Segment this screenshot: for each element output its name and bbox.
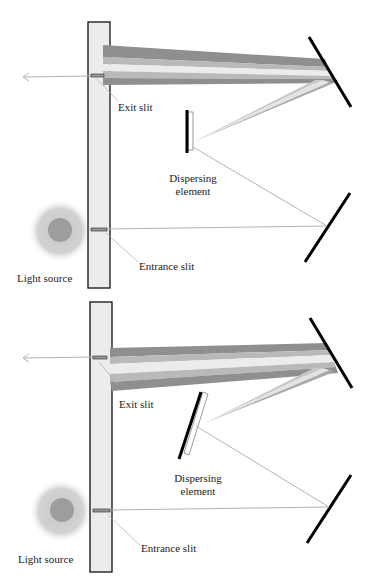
- label-line: element: [165, 485, 231, 498]
- mirror-lower: [307, 475, 351, 543]
- collimated-beam: [103, 45, 336, 85]
- dispersing-element: [187, 110, 193, 153]
- light-source-icon: [28, 199, 92, 263]
- dispersed-fan: [193, 80, 334, 142]
- label-light-source: Light source: [18, 553, 73, 566]
- label-entrance-slit: Entrance slit: [141, 542, 196, 555]
- output-arrow-icon: [23, 73, 92, 81]
- panel-top: [23, 22, 351, 288]
- entrance-slit: [91, 228, 107, 231]
- entrance-slit: [93, 509, 110, 512]
- output-arrow-icon: [23, 354, 94, 362]
- label-line: element: [160, 185, 226, 198]
- label-line: Dispersing: [165, 472, 231, 485]
- light-source-icon: [29, 479, 93, 543]
- label-line: Dispersing: [160, 172, 226, 185]
- label-exit-slit: Exit slit: [118, 101, 153, 114]
- housing-wall: [90, 302, 112, 572]
- label-exit-slit: Exit slit: [119, 398, 154, 411]
- dispersing-element: [179, 392, 208, 459]
- panel-bottom: [23, 302, 352, 572]
- label-dispersing-element: Dispersing element: [165, 472, 231, 498]
- exit-slit: [93, 356, 107, 359]
- mirror-lower: [305, 193, 350, 262]
- label-light-source: Light source: [17, 272, 72, 285]
- exit-slit: [91, 74, 104, 77]
- label-dispersing-element: Dispersing element: [160, 172, 226, 198]
- label-entrance-slit: Entrance slit: [139, 260, 194, 273]
